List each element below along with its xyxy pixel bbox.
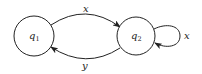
edge-q2-to-q1 — [51, 47, 120, 59]
edge-label-q1-q2: x — [83, 3, 89, 14]
edge-label-q2-self: x — [184, 30, 190, 41]
edge-q1-to-q2 — [51, 14, 120, 27]
edge-q2-self-loop — [154, 26, 180, 47]
edge-label-q2-q1: y — [81, 60, 88, 71]
state-diagram: x y x q1 q2 — [0, 0, 202, 74]
